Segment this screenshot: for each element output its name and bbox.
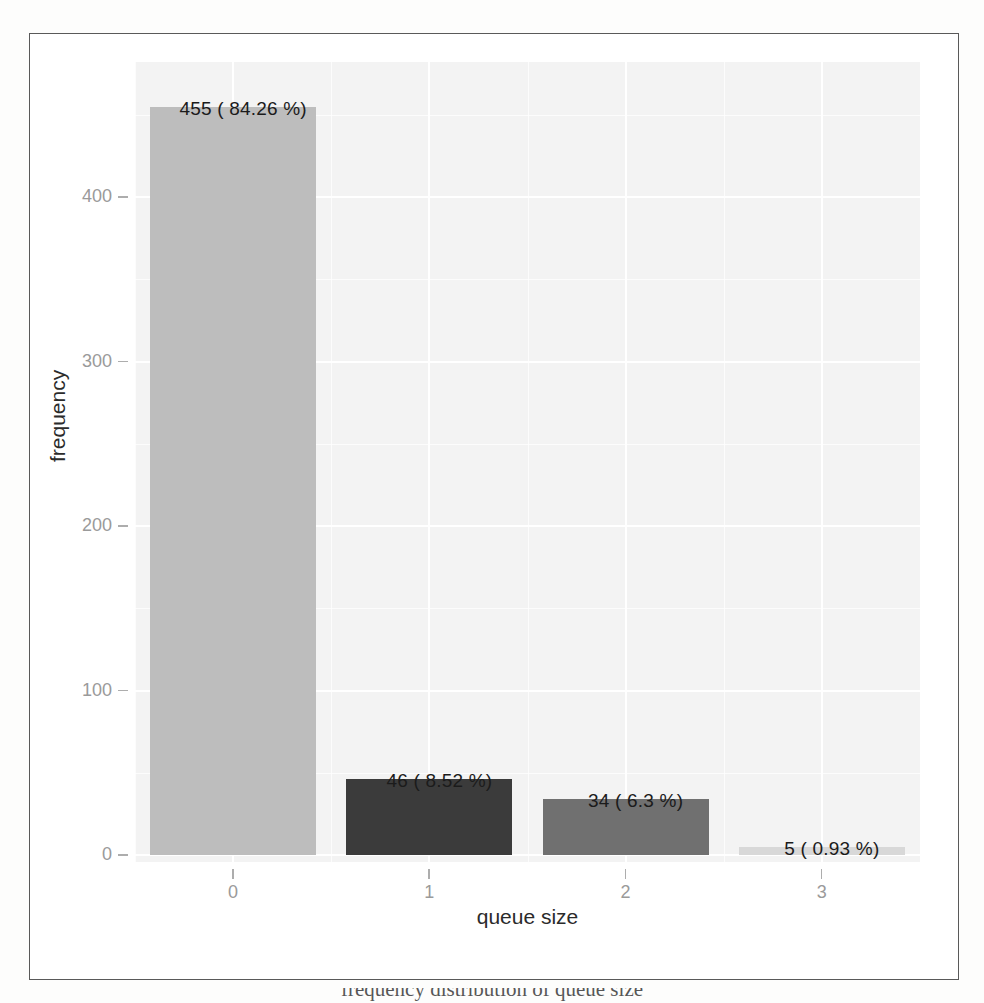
gridline-x-minor xyxy=(331,62,332,862)
gridline-x-major xyxy=(821,62,823,862)
x-tick-mark-3 xyxy=(821,869,823,879)
y-tick-label-300: 300 xyxy=(68,351,112,372)
x-tick-label-1: 1 xyxy=(399,882,459,903)
bar-label-1: 46 ( 8.52 %) xyxy=(386,770,492,792)
bar-0[interactable] xyxy=(150,107,316,855)
page-caption-bleed: frequency distribution of queue size xyxy=(0,988,984,1003)
gridline-x-minor xyxy=(135,62,136,862)
x-tick-mark-1 xyxy=(428,869,430,879)
gridline-x-minor xyxy=(724,62,725,862)
y-tick-mark-0 xyxy=(118,854,128,856)
page-caption-bleed-text: frequency distribution of queue size xyxy=(341,988,643,1002)
bar-label-3: 5 ( 0.93 %) xyxy=(784,838,879,860)
x-tick-label-0: 0 xyxy=(203,882,263,903)
x-tick-label-2: 2 xyxy=(596,882,656,903)
y-tick-label-0: 0 xyxy=(68,844,112,865)
y-tick-label-100: 100 xyxy=(68,680,112,701)
x-tick-label-3: 3 xyxy=(792,882,852,903)
x-tick-mark-0 xyxy=(232,869,234,879)
plot-panel xyxy=(135,62,920,862)
bar-label-2: 34 ( 6.3 %) xyxy=(588,790,683,812)
y-tick-mark-100 xyxy=(118,690,128,692)
y-tick-label-200: 200 xyxy=(68,515,112,536)
y-tick-label-400: 400 xyxy=(68,186,112,207)
gridline-x-major xyxy=(428,62,430,862)
gridline-x-major xyxy=(625,62,627,862)
bar-label-0: 455 ( 84.26 %) xyxy=(179,98,306,120)
x-axis-title: queue size xyxy=(135,905,920,929)
y-axis-title: frequency xyxy=(46,370,70,462)
bar-chart-figure: 0100200300400 frequency 0123 queue size … xyxy=(0,0,984,1003)
gridline-x-minor xyxy=(528,62,529,862)
y-tick-mark-400 xyxy=(118,196,128,198)
y-tick-mark-300 xyxy=(118,361,128,363)
x-tick-mark-2 xyxy=(625,869,627,879)
y-tick-mark-200 xyxy=(118,525,128,527)
scanned-page: 0100200300400 frequency 0123 queue size … xyxy=(0,0,984,1003)
